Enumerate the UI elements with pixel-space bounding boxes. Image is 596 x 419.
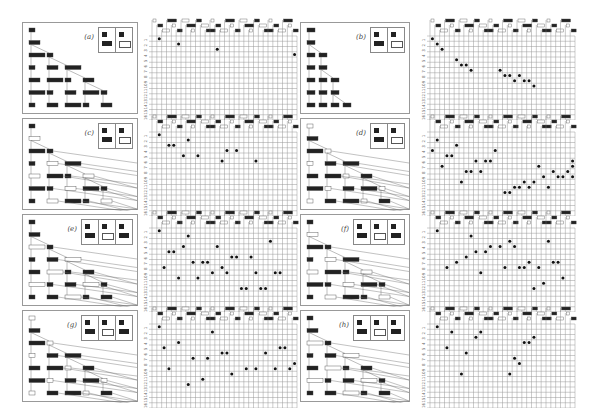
row-label: 2 [421,140,426,143]
rule-icon-inset [81,219,133,245]
event-dot [518,186,521,189]
event-dot [479,330,482,333]
row-label: 3 [143,49,148,52]
event-dot [187,138,190,141]
row-label: 14 [421,296,426,302]
evolution-dot-grid: 12345678910111213141516 [418,210,583,312]
event-dot [158,37,161,40]
event-dot [474,336,477,339]
event-dot [182,245,185,248]
event-dot [250,255,253,258]
event-dot [259,287,262,290]
event-dot [225,351,228,354]
event-dot [441,165,444,168]
row-label: 7 [421,262,426,265]
row-label: 13 [143,99,148,105]
row-label: 6 [143,257,148,260]
event-dot [513,79,516,82]
row-label: 1 [143,38,148,41]
row-label: 3 [421,49,426,52]
event-dot [455,144,458,147]
row-label: 10 [421,275,426,281]
event-dot [518,266,521,269]
event-dot [561,276,564,279]
event-dot [532,84,535,87]
event-dot [465,170,468,173]
causal-network-panel: (e) [22,214,138,306]
row-label: 8 [421,75,426,78]
row-label: 8 [143,363,148,366]
row-label: 10 [421,179,426,185]
row-label: 3 [143,241,148,244]
event-dot [158,229,161,232]
causal-network-panel: (a) [22,22,138,114]
event-dot [225,271,228,274]
event-dot [542,282,545,285]
event-dot [489,159,492,162]
event-dot [245,367,248,370]
rule-icon-inset [98,123,133,149]
row-label: 6 [143,161,148,164]
event-dot [245,287,248,290]
row-label: 14 [143,392,148,398]
evolution-dot-grid: 12345678910111213141516 [140,114,305,216]
row-label: 9 [421,368,426,371]
row-label: 11 [143,184,148,190]
panel-label: (g) [67,321,77,329]
event-dot [494,149,497,152]
event-dot [445,154,448,157]
event-dot [489,245,492,248]
row-label: 3 [421,337,426,340]
event-dot [450,154,453,157]
row-label: 12 [421,381,426,387]
event-dot [460,372,463,375]
event-dot [518,74,521,77]
event-dot [508,372,511,375]
event-dot [455,58,458,61]
row-label: 9 [143,368,148,371]
row-label: 4 [421,54,426,57]
event-dot [528,261,531,264]
event-dot [216,48,219,51]
event-dot [167,250,170,253]
event-dot [206,357,209,360]
event-dot [431,149,434,152]
evolution-dot-grid: 12345678910111213141516 [418,306,583,408]
row-label: 15 [421,397,426,403]
row-label: 2 [143,140,148,143]
event-dot [293,53,296,56]
row-label: 1 [421,134,426,137]
rule-icon [99,124,115,148]
event-dot [484,159,487,162]
event-dot [552,261,555,264]
row-label: 3 [143,337,148,340]
panel-label: (f) [341,225,349,233]
event-dot [230,372,233,375]
event-dot [523,180,526,183]
rule-icon [387,28,404,52]
event-dot [225,149,228,152]
event-dot [187,383,190,386]
rule-icon [354,316,370,340]
row-label: 2 [421,236,426,239]
event-dot [450,330,453,333]
event-dot [508,240,511,243]
row-label: 6 [421,65,426,68]
event-dot [503,74,506,77]
row-label: 5 [421,59,426,62]
event-dot [221,266,224,269]
event-dot [187,234,190,237]
event-dot [216,245,219,248]
event-dot [537,165,540,168]
row-label: 13 [143,195,148,201]
row-label: 7 [421,70,426,73]
evolution-dot-grid: 12345678910111213141516 [140,210,305,312]
row-label: 2 [421,332,426,335]
rule-icon [98,316,115,340]
rule-icon [371,28,387,52]
event-dot [254,367,257,370]
row-label: 1 [421,230,426,233]
event-dot [269,240,272,243]
evolution-dot-grid: 12345678910111213141516 [418,18,583,120]
row-label: 10 [421,371,426,377]
